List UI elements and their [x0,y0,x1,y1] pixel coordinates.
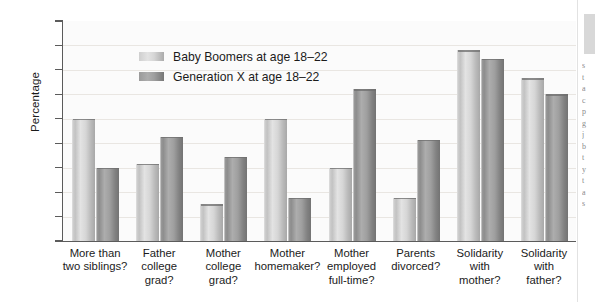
y-tick-mark [55,240,62,241]
legend-swatch-icon [139,52,164,61]
legend-item: Baby Boomers at age 18–22 [139,48,327,65]
gridline [63,45,576,46]
bar [481,59,504,241]
page-gutter-sliver: stacpgjbtytas [577,0,601,302]
gutter-text-line: t [582,72,601,84]
legend-label: Baby Boomers at age 18–22 [173,50,327,64]
gutter-text-fragment: stacpgjbtytas [582,60,601,210]
legend-swatch-icon [139,72,164,81]
bar [457,50,480,241]
gutter-text-line: c [582,95,601,107]
y-tick-mark [55,94,62,95]
y-tick-mark [55,167,62,168]
y-tick-mark [55,216,62,217]
bar [545,94,568,241]
x-axis-category-label: Solidaritywithfather? [505,247,583,287]
gutter-text-line: t [582,175,601,187]
y-tick-mark [55,45,62,46]
y-tick-mark [55,143,62,144]
y-tick-mark [55,192,62,193]
y-tick-mark [55,20,62,21]
y-axis-line [62,20,63,242]
bar [393,198,416,241]
legend-item: Generation X at age 18–22 [139,68,327,85]
chart-legend: Baby Boomers at age 18–22Generation X at… [139,48,327,88]
y-axis-title: Percentage [29,22,41,182]
bar [329,168,352,241]
bar [353,89,376,241]
bar [160,137,183,241]
bar [224,157,247,241]
bar [200,204,223,241]
gutter-text-line: p [582,106,601,118]
category-label-line: with [505,260,583,273]
gutter-text-line: a [582,187,601,199]
category-label-line: full-time? [313,274,391,287]
gutter-rule-mark [584,14,595,54]
bar [417,140,440,241]
bar [288,198,311,241]
gutter-text-line: g [582,118,601,130]
bar [136,164,159,241]
bar [96,168,119,241]
y-tick-mark [55,118,62,119]
gutter-text-line: y [582,164,601,176]
gutter-text-line: s [582,60,601,72]
x-axis-line [62,241,576,242]
y-tick-mark [55,69,62,70]
category-label-line: grad? [184,274,262,287]
bar [72,119,95,241]
gutter-text-line: b [582,141,601,153]
category-label-line: Solidarity [505,247,583,260]
gutter-text-line: s [582,198,601,210]
bar-chart-figure: Percentage 9080706050403020100 Baby Boom… [0,0,601,302]
gutter-text-line: t [582,152,601,164]
category-label-line: father? [505,274,583,287]
gutter-text-line: a [582,83,601,95]
gutter-text-line: j [582,129,601,141]
bar [264,119,287,241]
bar [521,78,544,241]
legend-label: Generation X at age 18–22 [173,70,319,84]
